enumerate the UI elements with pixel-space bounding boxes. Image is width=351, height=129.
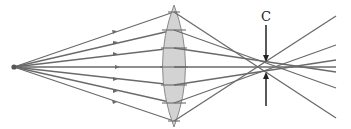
converging-lens <box>163 5 186 127</box>
incoming-ray <box>14 67 174 85</box>
incoming-ray <box>14 67 174 121</box>
refracted-rays <box>174 12 336 121</box>
incoming-ray <box>14 12 174 67</box>
incoming-ray <box>14 30 174 67</box>
incoming-ray <box>14 67 174 103</box>
incoming-ray <box>14 48 174 67</box>
arrow-icon <box>115 65 120 69</box>
point-source <box>11 64 16 69</box>
refracted-ray <box>174 60 336 85</box>
spherical-aberration-diagram: C <box>0 0 351 129</box>
label-c: C <box>261 9 271 24</box>
arrow-icon <box>113 77 118 81</box>
refracted-ray <box>174 12 336 118</box>
refracted-ray <box>174 45 336 103</box>
circle-of-least-confusion-marker <box>263 25 269 106</box>
incoming-rays <box>14 12 174 121</box>
refracted-ray <box>174 30 336 88</box>
